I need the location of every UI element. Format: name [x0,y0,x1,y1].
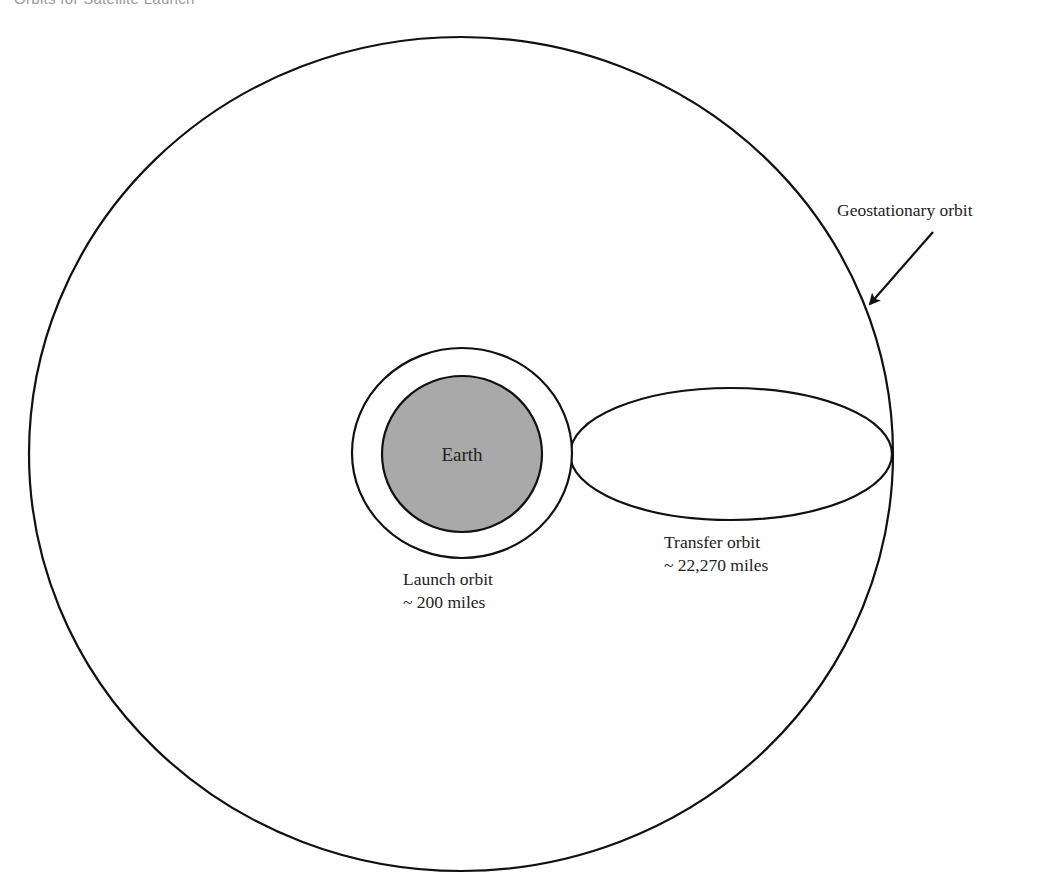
launch-orbit-altitude: ~ 200 miles [403,592,486,612]
launch-orbit-label: Launch orbit [403,569,493,589]
transfer-orbit-label: Transfer orbit [664,532,760,552]
geostationary-label: Geostationary orbit [837,200,973,220]
transfer-orbit [570,388,892,520]
earth-label: Earth [441,444,483,465]
orbit-diagram: Earth Geostationary orbit Launch orbit ~… [0,0,1055,894]
geostationary-arrow [870,232,933,304]
transfer-orbit-altitude: ~ 22,270 miles [664,555,768,575]
